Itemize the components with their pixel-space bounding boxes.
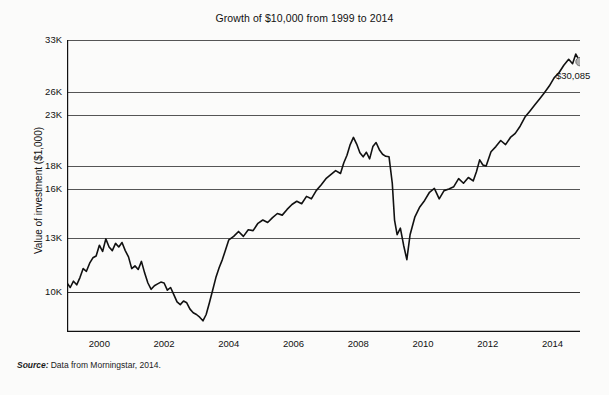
plot-svg (67, 40, 580, 332)
y-tick-label: 26K (28, 86, 62, 97)
x-tick-label: 2010 (398, 338, 448, 349)
x-tick-label: 2004 (204, 338, 254, 349)
gridlines (67, 41, 580, 293)
y-tick-label: 33K (28, 34, 62, 45)
x-tick-label: 2000 (74, 338, 124, 349)
x-tick-label: 2012 (463, 338, 513, 349)
x-tick-label: 2008 (333, 338, 383, 349)
source-label: Source: (17, 360, 49, 370)
y-tick-label: 18K (28, 160, 62, 171)
axis-tick-marks (67, 41, 580, 333)
x-tick-label: 2002 (139, 338, 189, 349)
endpoint-value-label: $30,085 (556, 70, 590, 81)
chart-title: Growth of $10,000 from 1999 to 2014 (0, 12, 609, 24)
plot-area (67, 40, 580, 332)
endpoint-marker (576, 57, 580, 65)
x-axis-tick-labels: 20002002200420062008201020122014 (0, 338, 609, 354)
y-axis-tick-labels: 10K13K16K18K23K26K33K (24, 0, 62, 395)
y-tick-label: 10K (28, 286, 62, 297)
y-tick-label: 16K (28, 183, 62, 194)
y-tick-label: 23K (28, 109, 62, 120)
chart-figure: Growth of $10,000 from 1999 to 2014 Valu… (0, 0, 609, 395)
axis-lines (67, 40, 580, 332)
y-tick-label: 13K (28, 232, 62, 243)
source-note: Source:Data from Morningstar, 2014. (17, 360, 161, 370)
x-tick-label: 2014 (527, 338, 577, 349)
source-text: Data from Morningstar, 2014. (51, 360, 161, 370)
data-series-line (67, 54, 580, 321)
x-tick-label: 2006 (269, 338, 319, 349)
